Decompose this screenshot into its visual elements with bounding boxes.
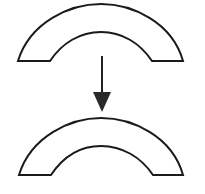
diagram-svg bbox=[0, 0, 205, 194]
top-arch-shape bbox=[18, 4, 183, 61]
bottom-arch-shape bbox=[19, 118, 183, 175]
diagram-canvas bbox=[0, 0, 205, 194]
arrow-down-icon bbox=[93, 92, 111, 112]
